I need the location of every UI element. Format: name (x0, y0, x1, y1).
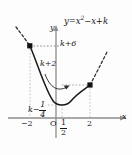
point-marker-x-2 (87, 82, 92, 87)
half-fraction-numerator: 1 (60, 119, 67, 127)
annotation-vertex-prefix: k− (28, 106, 39, 114)
exponent-2: 2 (80, 14, 84, 21)
vertex-fraction-numerator: 1 (39, 101, 46, 109)
parabola-figure: y=x2−x+k y x k+6 k+2 k−14 −2 O 12 2 (0, 0, 132, 155)
x-tick-label-minus2: −2 (21, 120, 33, 128)
vertex-fraction-denominator: 4 (39, 111, 46, 119)
curve-dashed-right (90, 52, 107, 85)
vertex-fraction: 14 (39, 101, 46, 119)
curve-equation-label: y=x2−x+k (64, 15, 108, 25)
x-axis-label: x (122, 113, 126, 121)
x-tick-label-2: 2 (87, 120, 92, 128)
point-marker-x-minus2 (27, 43, 32, 48)
origin-label: O (50, 120, 56, 128)
annotation-arrow-head (64, 85, 70, 89)
y-axis-label: y (50, 24, 54, 32)
annotation-k-plus-2: k+2 (40, 60, 56, 68)
half-fraction: 12 (60, 119, 67, 137)
annotation-k-plus-6: k+6 (60, 40, 76, 48)
half-fraction-denominator: 2 (60, 129, 67, 137)
curve-solid (30, 46, 90, 105)
annotation-vertex-value: k−14 (28, 101, 46, 119)
curve-dashed-left (16, 27, 30, 46)
x-tick-label-half: 12 (60, 119, 67, 137)
equation-text: y=x2−x+k (64, 16, 108, 26)
